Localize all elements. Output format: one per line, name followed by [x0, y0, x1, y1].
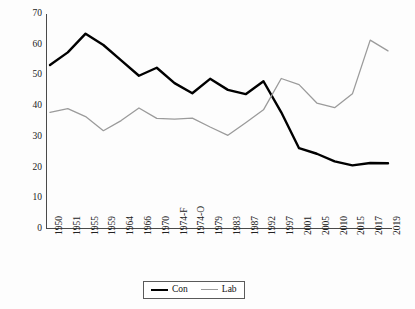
x-tick-label: 1983 — [232, 216, 242, 235]
vote-share-line-chart: Vote share (%) 010203040506070 195019511… — [0, 0, 415, 309]
x-tick-label: 1950 — [54, 216, 64, 235]
x-tick-label: 1992 — [267, 216, 277, 235]
x-tick-label: 1966 — [143, 216, 153, 235]
x-tick-label: 2017 — [374, 216, 384, 235]
legend-entry-lab[interactable]: Lab — [201, 284, 237, 295]
x-tick-label: 1974-F — [179, 208, 189, 235]
legend-swatch-con-icon — [151, 289, 168, 291]
x-tick-label: 1970 — [161, 216, 171, 235]
legend-label-lab: Lab — [222, 284, 237, 295]
x-tick-label: 2019 — [392, 216, 402, 235]
x-tick-label: 2001 — [303, 216, 313, 235]
x-tick-label: 1951 — [72, 216, 82, 235]
x-tick-label: 1974-O — [196, 206, 206, 235]
legend-swatch-lab-icon — [201, 289, 218, 290]
x-tick-label: 1964 — [125, 216, 135, 235]
x-tick-label: 2010 — [339, 216, 349, 235]
legend-label-con: Con — [172, 284, 188, 295]
chart-legend: Con Lab — [143, 281, 245, 299]
x-tick-label: 2005 — [321, 216, 331, 235]
legend-entry-con[interactable]: Con — [151, 284, 188, 295]
x-tick-label: 2015 — [356, 216, 366, 235]
x-tick-label: 1997 — [285, 216, 295, 235]
x-axis-tick-labels: 19501951195519591964196619701974-F1974-O… — [0, 0, 415, 309]
x-tick-label: 1955 — [90, 216, 100, 235]
x-tick-label: 1979 — [214, 216, 224, 235]
x-tick-label: 1959 — [107, 216, 117, 235]
x-tick-label: 1987 — [250, 216, 260, 235]
